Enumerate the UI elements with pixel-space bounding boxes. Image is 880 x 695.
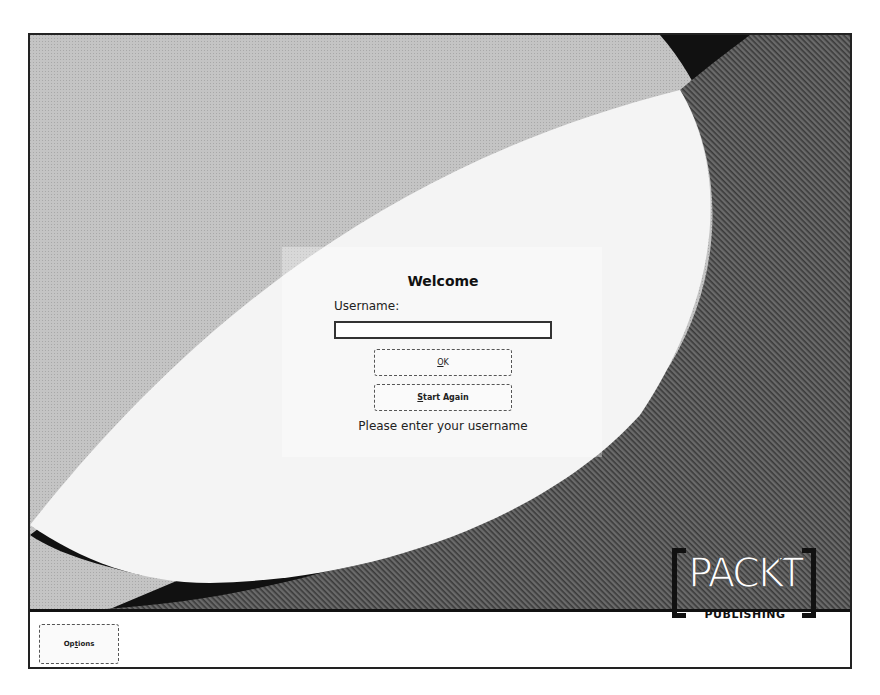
packt-logo: PACKT PUBLISHING <box>666 548 824 638</box>
username-label: Username: <box>334 299 399 313</box>
options-label-pre: Op <box>64 640 75 648</box>
logo-brand-text: PACKT <box>676 550 814 596</box>
start-again-button[interactable]: Start Again <box>374 384 512 411</box>
login-dialog: Welcome Username: OK Start Again Please … <box>332 267 554 447</box>
logo-tagline: PUBLISHING <box>676 608 814 621</box>
options-label-rest: ions <box>78 640 94 648</box>
status-message: Please enter your username <box>312 419 574 433</box>
ok-button[interactable]: OK <box>374 349 512 376</box>
dialog-title: Welcome <box>332 273 554 289</box>
username-input[interactable] <box>334 321 552 339</box>
background-scene: Welcome Username: OK Start Again Please … <box>30 35 850 609</box>
ok-label: K <box>444 358 449 367</box>
options-button[interactable]: Options <box>39 624 119 664</box>
start-again-label: tart Again <box>423 393 469 402</box>
